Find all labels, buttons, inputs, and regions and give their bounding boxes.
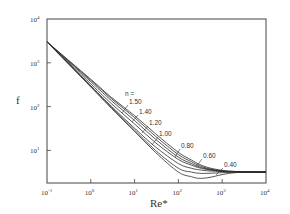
y-tick-label: 101	[30, 146, 40, 155]
y-tick-label: 103	[30, 59, 40, 68]
curve-label-n-0-60: 0.60	[203, 152, 216, 159]
y-tick-label: 102	[30, 103, 40, 112]
curve-label-n-0-40: 0.40	[224, 161, 237, 168]
curve-n-1-50	[47, 42, 266, 172]
x-tick-label: 103	[216, 188, 226, 197]
x-tick-label: 100	[85, 188, 95, 197]
curves	[47, 42, 266, 178]
curve-n-0-80	[47, 42, 266, 172]
x-axis-title: Re*	[150, 197, 168, 209]
chart: 1.501.401.201.000.800.600.40 10-11001011…	[0, 0, 290, 214]
curve-n-0-40	[47, 42, 266, 178]
curve-label-n-1-20: 1.20	[149, 119, 162, 126]
curve-label-n-1-50: 1.50	[129, 98, 142, 105]
plot-border	[47, 19, 266, 183]
curve-label-n-1-40: 1.40	[139, 108, 152, 115]
x-tick-label: 104	[260, 188, 270, 197]
curve-label-n-1-00: 1.00	[159, 130, 172, 137]
curve-label-n-0-80: 0.80	[181, 142, 194, 149]
x-tick-label: 10-1	[41, 188, 53, 197]
x-tick-label: 102	[172, 188, 182, 197]
y-axis-title: f	[16, 94, 20, 106]
x-tick-label: 101	[129, 188, 139, 197]
y-tick-label: 104	[30, 15, 40, 24]
y-axis-ticks: 101102103104	[30, 15, 51, 155]
plot-frame	[47, 19, 266, 183]
curve-n-1-20	[47, 42, 266, 172]
x-axis-ticks: 10-1100101102103104	[41, 179, 270, 197]
curve-n-1-00	[47, 42, 266, 172]
legend-header: n =	[125, 90, 134, 97]
curve-n-1-40	[47, 42, 266, 172]
